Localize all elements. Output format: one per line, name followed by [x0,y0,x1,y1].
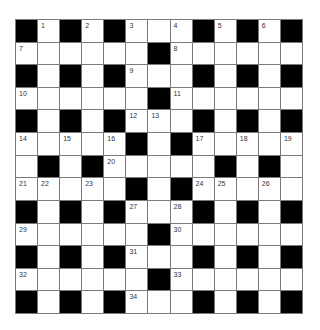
crossword-cell[interactable]: 33 [171,269,192,291]
crossword-cell[interactable] [82,246,103,268]
crossword-cell[interactable]: 23 [82,178,103,200]
crossword-cell[interactable] [215,133,236,155]
crossword-cell[interactable] [148,246,169,268]
crossword-cell[interactable]: 31 [126,246,147,268]
crossword-cell[interactable] [193,156,214,178]
crossword-cell[interactable]: 3 [126,20,147,42]
crossword-cell[interactable] [237,224,258,246]
crossword-cell[interactable]: 15 [60,133,81,155]
crossword-cell[interactable] [259,65,280,87]
crossword-cell[interactable] [38,65,59,87]
crossword-cell[interactable]: 32 [16,269,37,291]
crossword-cell[interactable] [148,178,169,200]
crossword-cell[interactable] [126,269,147,291]
crossword-cell[interactable] [82,291,103,313]
crossword-cell[interactable] [171,246,192,268]
crossword-cell[interactable] [60,178,81,200]
crossword-cell[interactable] [259,133,280,155]
crossword-cell[interactable]: 16 [104,133,125,155]
crossword-cell[interactable]: 9 [126,65,147,87]
crossword-cell[interactable]: 1 [38,20,59,42]
crossword-cell[interactable] [82,201,103,223]
crossword-cell[interactable] [38,133,59,155]
crossword-cell[interactable] [237,88,258,110]
crossword-cell[interactable] [126,224,147,246]
crossword-cell[interactable] [193,269,214,291]
crossword-cell[interactable] [259,291,280,313]
crossword-cell[interactable]: 34 [126,291,147,313]
crossword-cell[interactable] [215,88,236,110]
crossword-cell[interactable] [171,65,192,87]
crossword-cell[interactable] [126,88,147,110]
crossword-cell[interactable] [215,224,236,246]
crossword-cell[interactable]: 2 [82,20,103,42]
crossword-cell[interactable] [215,65,236,87]
crossword-cell[interactable] [60,88,81,110]
crossword-cell[interactable] [82,269,103,291]
crossword-cell[interactable]: 13 [148,110,169,132]
crossword-cell[interactable] [237,156,258,178]
crossword-cell[interactable]: 17 [193,133,214,155]
crossword-cell[interactable] [215,110,236,132]
crossword-cell[interactable]: 4 [171,20,192,42]
crossword-cell[interactable] [237,43,258,65]
crossword-cell[interactable] [215,201,236,223]
crossword-cell[interactable] [281,269,302,291]
crossword-cell[interactable]: 29 [16,224,37,246]
crossword-cell[interactable] [171,110,192,132]
crossword-cell[interactable] [259,201,280,223]
crossword-cell[interactable]: 21 [16,178,37,200]
crossword-cell[interactable] [82,88,103,110]
crossword-cell[interactable] [281,224,302,246]
crossword-cell[interactable] [148,133,169,155]
crossword-cell[interactable] [38,201,59,223]
crossword-cell[interactable] [148,291,169,313]
crossword-cell[interactable] [82,65,103,87]
crossword-cell[interactable] [215,246,236,268]
crossword-cell[interactable] [148,201,169,223]
crossword-cell[interactable] [126,43,147,65]
crossword-cell[interactable] [148,65,169,87]
crossword-cell[interactable]: 26 [259,178,280,200]
crossword-cell[interactable]: 30 [171,224,192,246]
crossword-cell[interactable]: 20 [104,156,125,178]
crossword-cell[interactable]: 22 [38,178,59,200]
crossword-cell[interactable] [82,43,103,65]
crossword-cell[interactable] [82,133,103,155]
crossword-cell[interactable]: 7 [16,43,37,65]
crossword-cell[interactable] [16,156,37,178]
crossword-cell[interactable] [193,43,214,65]
crossword-cell[interactable] [259,43,280,65]
crossword-cell[interactable]: 28 [171,201,192,223]
crossword-cell[interactable] [215,43,236,65]
crossword-cell[interactable]: 10 [16,88,37,110]
crossword-cell[interactable] [215,291,236,313]
crossword-cell[interactable] [38,110,59,132]
crossword-cell[interactable] [171,291,192,313]
crossword-cell[interactable] [60,224,81,246]
crossword-cell[interactable] [259,269,280,291]
crossword-cell[interactable] [193,224,214,246]
crossword-cell[interactable] [104,178,125,200]
crossword-cell[interactable] [237,269,258,291]
crossword-cell[interactable]: 11 [171,88,192,110]
crossword-cell[interactable]: 5 [215,20,236,42]
crossword-cell[interactable] [38,43,59,65]
crossword-cell[interactable] [82,110,103,132]
crossword-cell[interactable] [148,20,169,42]
crossword-cell[interactable] [38,224,59,246]
crossword-cell[interactable] [237,178,258,200]
crossword-cell[interactable] [104,269,125,291]
crossword-cell[interactable]: 19 [281,133,302,155]
crossword-cell[interactable]: 25 [215,178,236,200]
crossword-cell[interactable] [38,269,59,291]
crossword-cell[interactable]: 18 [237,133,258,155]
crossword-cell[interactable] [259,110,280,132]
crossword-cell[interactable] [148,156,169,178]
crossword-cell[interactable] [193,88,214,110]
crossword-cell[interactable] [60,43,81,65]
crossword-cell[interactable] [281,43,302,65]
crossword-cell[interactable] [259,88,280,110]
crossword-cell[interactable] [126,156,147,178]
crossword-cell[interactable] [215,269,236,291]
